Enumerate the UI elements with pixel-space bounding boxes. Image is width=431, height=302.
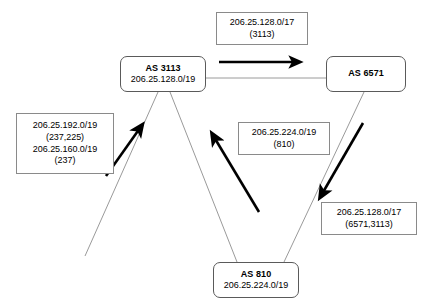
annotation-box-right: 206.25.128.0/17 (6571,3113) <box>321 202 417 235</box>
node-as-6571-title: AS 6571 <box>348 68 384 79</box>
annotation-top-line-2: (3113) <box>249 29 274 41</box>
annotation-right-line-2: (6571,3113) <box>345 219 392 231</box>
annotation-box-middle: 206.25.224.0/19 (810) <box>238 122 330 155</box>
annotation-middle-line-1: 206.25.224.0/19 <box>252 127 316 139</box>
annotation-left-line-1: 206.25.192.0/19 <box>33 120 97 132</box>
link-as3113-as810 <box>170 92 237 262</box>
annotation-left-line-3: 206.25.160.0/19 <box>33 144 97 156</box>
node-as-3113-title: AS 3113 <box>145 63 180 74</box>
annotation-box-left: 206.25.192.0/19 (237,225) 206.25.160.0/1… <box>16 113 114 174</box>
node-as-810-title: AS 810 <box>241 269 272 280</box>
node-as-810[interactable]: AS 810 206.25.224.0/19 <box>213 262 299 298</box>
bgp-route-advertisement-diagram: AS 3113 206.25.128.0/19 AS 6571 AS 810 2… <box>0 0 431 302</box>
annotation-middle-line-2: (810) <box>274 139 295 151</box>
node-as-6571[interactable]: AS 6571 <box>326 56 406 92</box>
annotation-box-top: 206.25.128.0/17 (3113) <box>216 12 308 45</box>
node-as-810-prefix: 206.25.224.0/19 <box>224 280 288 291</box>
annotation-top-line-1: 206.25.128.0/17 <box>230 17 294 29</box>
annotation-left-line-2: (237,225) <box>46 132 84 144</box>
node-as-3113[interactable]: AS 3113 206.25.128.0/19 <box>120 56 206 92</box>
annotation-left-line-4: (237) <box>55 155 76 167</box>
annotation-right-line-1: 206.25.128.0/17 <box>337 207 401 219</box>
link-as6571-as810 <box>284 92 364 262</box>
node-as-3113-prefix: 206.25.128.0/19 <box>131 74 195 85</box>
